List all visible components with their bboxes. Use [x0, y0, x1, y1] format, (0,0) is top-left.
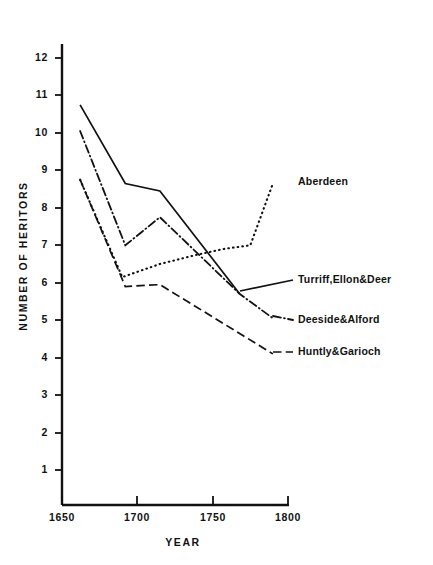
y-tick-label-12: 12 [18, 51, 48, 63]
y-tick-label-2: 2 [18, 426, 48, 438]
series-line-turriff-ellon-deer [80, 105, 240, 294]
y-tick-label-10: 10 [18, 126, 48, 138]
series-label-deeside-alford: Deeside&Alford [298, 313, 380, 325]
series-label-turriff-ellon-deer: Turriff,Ellon&Deer [298, 273, 391, 285]
x-tick-label-1750: 1750 [191, 511, 235, 523]
x-tick-label-1700: 1700 [115, 511, 159, 523]
y-tick-label-11: 11 [18, 88, 48, 100]
series-label-aberdeen: Aberdeen [298, 175, 348, 187]
series-label-huntly-garioch: Huntly&Garioch [298, 345, 381, 357]
y-tick-label-3: 3 [18, 388, 48, 400]
leader-line-turriff [240, 280, 293, 291]
x-tick-label-1650: 1650 [40, 511, 84, 523]
chart-figure: 12 11 10 9 8 7 6 5 4 3 2 1 1650 1700 175… [0, 0, 433, 565]
y-axis-title: NUMBER OF HERITORS [17, 171, 29, 341]
x-axis-title: YEAR [128, 536, 238, 548]
leader-line-deeside [273, 316, 293, 320]
series-line-aberdeen [80, 180, 273, 277]
label-leader-lines [240, 280, 293, 352]
y-tick-label-4: 4 [18, 351, 48, 363]
x-tick-label-1800: 1800 [266, 511, 310, 523]
x-tick-marks [62, 496, 288, 505]
y-tick-label-1: 1 [18, 463, 48, 475]
